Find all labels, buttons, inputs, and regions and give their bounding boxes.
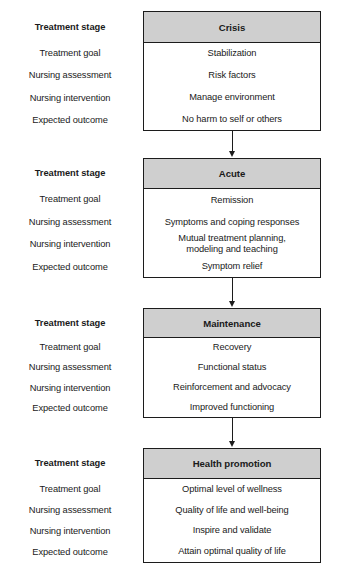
stage-row: Recovery — [144, 338, 320, 358]
stage-box-health-promotion: Health promotionOptimal level of wellnes… — [143, 448, 321, 563]
stage-row: Symptoms and coping responses — [144, 211, 320, 233]
label-row-expected-outcome: Expected outcome — [0, 109, 143, 131]
stage-row-text: Improved functioning — [190, 402, 274, 413]
stage-row-text: Symptoms and coping responses — [165, 217, 300, 228]
stage-row-line: Functional status — [198, 362, 267, 373]
stage-row-line: Stabilization — [208, 48, 257, 59]
arrow-shaft — [232, 418, 233, 443]
stage-row-line: Reinforcement and advocacy — [173, 382, 291, 393]
stage-row-text: Recovery — [213, 342, 251, 353]
arrow-shaft — [232, 131, 233, 153]
label-row-nursing-assessment: Nursing assessment — [0, 357, 143, 377]
label-row-treatment-goal: Treatment goal — [0, 337, 143, 357]
arrow-head-icon — [229, 441, 235, 447]
stage-row-line: Mutual treatment planning, — [178, 233, 285, 244]
label-row-treatment-goal: Treatment goal — [0, 188, 143, 211]
label-row-expected-outcome: Expected outcome — [0, 542, 143, 563]
stage-row-text: Inspire and validate — [193, 525, 272, 536]
stage-heading-maintenance: Maintenance — [144, 309, 320, 338]
labels-row-list: Treatment goalNursing assessmentNursing … — [0, 478, 143, 563]
stage-row-text: No harm to self or others — [182, 114, 282, 125]
label-row-nursing-intervention: Nursing intervention — [0, 233, 143, 256]
label-row-treatment-goal: Treatment goal — [0, 478, 143, 499]
labels-row-list: Treatment goalNursing assessmentNursing … — [0, 42, 143, 131]
flow-arrow-down — [229, 418, 236, 448]
stage-row: Optimal level of wellness — [144, 479, 320, 500]
treatment-stage-diagram: Treatment stageTreatment goalNursing ass… — [0, 0, 339, 568]
stage-row: Reinforcement and advocacy — [144, 378, 320, 398]
stage-row: Inspire and validate — [144, 521, 320, 542]
arrow-shaft — [232, 278, 233, 303]
stage-row-text: Attain optimal quality of life — [178, 546, 286, 557]
stage-row-line: Manage environment — [189, 92, 275, 103]
stage-row-line: Attain optimal quality of life — [178, 546, 286, 557]
stage-row-list-acute: RemissionSymptoms and coping responsesMu… — [144, 189, 320, 277]
label-row-nursing-assessment: Nursing assessment — [0, 499, 143, 520]
stage-heading-health-promotion: Health promotion — [144, 449, 320, 479]
labels-heading: Treatment stage — [0, 448, 143, 478]
stage-heading-acute: Acute — [144, 159, 320, 189]
stage-box-acute: AcuteRemissionSymptoms and coping respon… — [143, 158, 321, 278]
label-row-nursing-intervention: Nursing intervention — [0, 87, 143, 109]
stage-row-line: Inspire and validate — [193, 525, 272, 536]
stage-row-text: Symptom relief — [202, 261, 263, 272]
stage-row: Stabilization — [144, 43, 320, 65]
label-row-nursing-intervention: Nursing intervention — [0, 378, 143, 398]
stage-row-text: Reinforcement and advocacy — [173, 382, 291, 393]
stage-row-line: Optimal level of wellness — [182, 484, 282, 495]
stage-labels-maintenance: Treatment stageTreatment goalNursing ass… — [0, 308, 143, 418]
stage-block-maintenance: Treatment stageTreatment goalNursing ass… — [0, 308, 339, 418]
stage-row-text: Risk factors — [208, 70, 255, 81]
stage-row: Remission — [144, 189, 320, 211]
labels-heading: Treatment stage — [0, 158, 143, 188]
stage-row-line: Symptom relief — [202, 261, 263, 272]
stage-row-text: Optimal level of wellness — [182, 484, 282, 495]
stage-row-line: Improved functioning — [190, 402, 274, 413]
stage-row-line: Quality of life and well-being — [175, 505, 288, 516]
stage-labels-crisis: Treatment stageTreatment goalNursing ass… — [0, 11, 143, 131]
label-row-nursing-assessment: Nursing assessment — [0, 211, 143, 234]
stage-row: Mutual treatment planning,modeling and t… — [144, 233, 320, 255]
stage-block-acute: Treatment stageTreatment goalNursing ass… — [0, 158, 339, 278]
stage-row: Risk factors — [144, 65, 320, 87]
stage-row: Symptom relief — [144, 255, 320, 277]
flow-arrow-down — [229, 278, 236, 308]
labels-row-list: Treatment goalNursing assessmentNursing … — [0, 337, 143, 418]
arrow-head-icon — [229, 301, 235, 307]
stage-row-list-maintenance: RecoveryFunctional statusReinforcement a… — [144, 338, 320, 417]
stage-heading-crisis: Crisis — [144, 12, 320, 43]
flow-arrow-down — [229, 131, 236, 158]
label-row-treatment-goal: Treatment goal — [0, 42, 143, 64]
stage-row-line: Symptoms and coping responses — [165, 217, 300, 228]
stage-row: Functional status — [144, 358, 320, 378]
stage-row: Quality of life and well-being — [144, 500, 320, 521]
stage-row-text: Stabilization — [208, 48, 257, 59]
stage-row-line: Risk factors — [208, 70, 255, 81]
stage-row-text: Functional status — [198, 362, 267, 373]
arrow-head-icon — [229, 151, 235, 157]
label-row-nursing-assessment: Nursing assessment — [0, 64, 143, 86]
stage-block-health-promotion: Treatment stageTreatment goalNursing ass… — [0, 448, 339, 563]
stage-row-text: Mutual treatment planning,modeling and t… — [178, 233, 285, 255]
stage-row-text: Manage environment — [189, 92, 275, 103]
labels-heading: Treatment stage — [0, 11, 143, 42]
stage-row: No harm to self or others — [144, 108, 320, 130]
labels-row-list: Treatment goalNursing assessmentNursing … — [0, 188, 143, 278]
stage-row-line: Remission — [211, 195, 254, 206]
stage-row-text: Quality of life and well-being — [175, 505, 288, 516]
stage-row-list-health-promotion: Optimal level of wellnessQuality of life… — [144, 479, 320, 562]
stage-row: Manage environment — [144, 87, 320, 109]
label-row-expected-outcome: Expected outcome — [0, 256, 143, 279]
label-row-expected-outcome: Expected outcome — [0, 398, 143, 418]
stage-labels-acute: Treatment stageTreatment goalNursing ass… — [0, 158, 143, 278]
stage-row-line: modeling and teaching — [178, 244, 285, 255]
stage-block-crisis: Treatment stageTreatment goalNursing ass… — [0, 11, 339, 131]
stage-box-crisis: CrisisStabilizationRisk factorsManage en… — [143, 11, 321, 131]
stage-row-line: No harm to self or others — [182, 114, 282, 125]
stage-row-line: Recovery — [213, 342, 251, 353]
labels-heading: Treatment stage — [0, 308, 143, 337]
stage-box-maintenance: MaintenanceRecoveryFunctional statusRein… — [143, 308, 321, 418]
stage-row: Attain optimal quality of life — [144, 541, 320, 562]
label-row-nursing-intervention: Nursing intervention — [0, 521, 143, 542]
stage-row: Improved functioning — [144, 397, 320, 417]
